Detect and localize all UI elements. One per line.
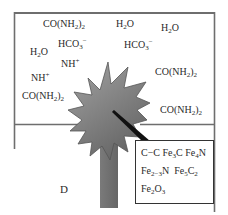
label-text: NH (31, 72, 45, 83)
bicarbonate-label-2: HCO3− (124, 39, 153, 50)
label-superscript: − (149, 38, 153, 46)
urea-label-4: CO(NH2)2 (160, 104, 202, 115)
callout-row-2: Fe2−3N Fe5C2 (141, 165, 198, 176)
callout-row-3: Fe2O3 (141, 183, 165, 194)
urea-label-2: CO(NH2)2 (155, 66, 197, 77)
label-text: O (127, 18, 134, 29)
label-superscript: − (83, 37, 87, 45)
label-text: CO(NH (43, 18, 75, 29)
ammonium-label-2: NH+ (31, 72, 49, 83)
water-label-2: H2O (161, 22, 179, 33)
label-text: CO(NH (160, 104, 192, 115)
callout-text: N (199, 147, 206, 158)
callout-text: Fe (141, 183, 151, 194)
callout-text: C Fe (176, 147, 195, 158)
water-label-3: H2O (30, 46, 48, 57)
water-label-1: H2O (116, 18, 134, 29)
phase-callout-box: C−C Fe3C Fe4N Fe2−3N Fe5C2 Fe2O3 (135, 140, 214, 204)
panel-label: D (60, 184, 68, 195)
label-text: O (172, 22, 179, 33)
label-subscript: 2 (194, 71, 198, 79)
urea-label-1: CO(NH2)2 (43, 18, 85, 29)
callout-subscript: 3 (162, 188, 166, 196)
callout-text: O (155, 183, 162, 194)
diagram-canvas: CO(NH2)2 H2O H2O HCO3− HCO3− H2O NH+ CO(… (0, 0, 228, 215)
callout-text: N Fe (162, 165, 184, 176)
bicarbonate-label-1: HCO3− (58, 38, 87, 49)
label-text: HCO (124, 39, 145, 50)
label-text: CO(NH (22, 90, 54, 101)
callout-row-1: C−C Fe3C Fe4N (141, 147, 206, 158)
callout-text: C−C Fe (141, 147, 172, 158)
label-text: NH (61, 58, 75, 69)
label-text: CO(NH (155, 66, 187, 77)
label-superscript: + (45, 71, 49, 79)
label-text: HCO (58, 38, 79, 49)
callout-subscript: 2 (194, 170, 198, 178)
label-subscript: 2 (199, 109, 203, 117)
label-subscript: 2 (61, 95, 65, 103)
label-superscript: + (75, 57, 79, 65)
label-text: O (41, 46, 48, 57)
ammonium-label-1: NH+ (61, 58, 79, 69)
panel-label-text: D (60, 183, 68, 195)
urea-label-3: CO(NH2)2 (22, 90, 64, 101)
label-subscript: 2 (82, 23, 86, 31)
callout-subscript: 2−3 (151, 170, 162, 178)
callout-text: Fe (141, 165, 151, 176)
